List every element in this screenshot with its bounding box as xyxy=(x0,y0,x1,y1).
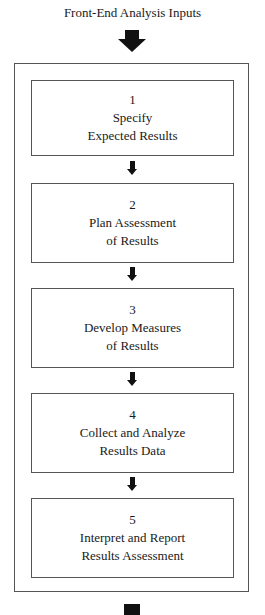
step-label-line2: of Results xyxy=(106,232,158,250)
down-arrow-icon xyxy=(127,477,137,491)
step-label-line1: Specify xyxy=(113,109,153,127)
step-label-line2: of Results xyxy=(106,337,158,355)
step-label-line2: Results Data xyxy=(99,442,165,460)
step-number: 3 xyxy=(129,301,136,319)
step-number: 5 xyxy=(129,511,136,529)
step-label-line1: Collect and Analyze xyxy=(80,424,185,442)
down-arrow-icon xyxy=(127,372,137,386)
down-arrow-icon xyxy=(127,161,137,175)
step-label-line1: Plan Assessment xyxy=(89,214,176,232)
step-number: 4 xyxy=(129,406,136,424)
step-2-box: 2 Plan Assessment of Results xyxy=(31,183,234,263)
step-label-line1: Interpret and Report xyxy=(80,529,185,547)
step-5-box: 5 Interpret and Report Results Assessmen… xyxy=(31,498,234,578)
down-arrow-icon xyxy=(118,30,146,52)
down-arrow-icon xyxy=(127,267,137,281)
step-label-line1: Develop Measures xyxy=(84,319,181,337)
input-title: Front-End Analysis Inputs xyxy=(0,5,265,21)
process-container: 1 Specify Expected Results 2 Plan Assess… xyxy=(14,63,249,592)
output-arrow-icon xyxy=(124,604,140,615)
step-number: 2 xyxy=(129,196,136,214)
step-label-line2: Results Assessment xyxy=(81,547,183,565)
step-3-box: 3 Develop Measures of Results xyxy=(31,288,234,368)
step-number: 1 xyxy=(129,91,136,109)
step-1-box: 1 Specify Expected Results xyxy=(31,80,234,156)
step-4-box: 4 Collect and Analyze Results Data xyxy=(31,393,234,473)
step-label-line2: Expected Results xyxy=(88,127,178,145)
